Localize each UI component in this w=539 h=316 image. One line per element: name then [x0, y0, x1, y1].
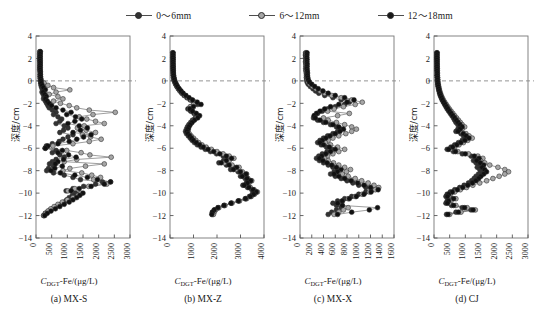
svg-text:4: 4: [426, 31, 431, 41]
chart-panel-mx-x: 420−2−4−6−8−10−12−1402004006008001000120…: [266, 26, 400, 316]
svg-text:0: 0: [427, 243, 436, 247]
svg-text:3000: 3000: [123, 243, 132, 259]
svg-text:−12: −12: [283, 211, 296, 221]
panel-caption: (a) MX-S: [2, 294, 136, 304]
svg-text:1000: 1000: [458, 243, 467, 259]
svg-text:−12: −12: [153, 211, 166, 221]
svg-text:−2: −2: [23, 99, 32, 109]
legend-entry-6-12mm: 6～12mm: [249, 8, 319, 22]
svg-text:−4: −4: [23, 121, 33, 131]
svg-text:−6: −6: [421, 143, 430, 153]
svg-text:1000: 1000: [352, 243, 361, 259]
svg-text:800: 800: [340, 243, 349, 255]
legend-entry-12-18mm: 12～18mm: [378, 8, 453, 22]
svg-text:2000: 2000: [490, 243, 499, 259]
svg-text:−6: −6: [287, 143, 296, 153]
x-axis-title: CDGT-Fe/(μg/L): [266, 276, 400, 287]
svg-text:500: 500: [443, 243, 452, 255]
svg-text:4: 4: [28, 31, 33, 41]
svg-text:1000: 1000: [187, 243, 196, 259]
svg-text:0: 0: [426, 76, 430, 86]
svg-text:−14: −14: [417, 233, 431, 243]
y-axis-title: 深度/cm: [273, 95, 286, 155]
svg-text:−4: −4: [157, 121, 167, 131]
svg-text:3000: 3000: [234, 243, 243, 259]
svg-text:1600: 1600: [387, 243, 396, 259]
svg-text:−4: −4: [287, 121, 297, 131]
x-axis-title: CDGT-Fe/(μg/L): [136, 276, 270, 287]
legend-label: 0～6mm: [156, 8, 191, 22]
chart-panel-mx-s: 420−2−4−6−8−10−12−1405001000150020002500…: [2, 26, 136, 316]
legend-marker-icon: [249, 11, 275, 20]
legend-label: 6～12mm: [279, 8, 319, 22]
chart-legend: 0～6mm 6～12mm 12～18mm: [0, 4, 539, 26]
svg-text:0: 0: [292, 76, 296, 86]
svg-text:2: 2: [162, 54, 166, 64]
panel-caption: (d) CJ: [400, 294, 534, 304]
svg-text:3000: 3000: [521, 243, 530, 259]
svg-text:0: 0: [28, 76, 32, 86]
panel-caption: (b) MX-Z: [136, 294, 270, 304]
svg-text:−8: −8: [23, 166, 32, 176]
svg-text:−10: −10: [283, 188, 296, 198]
svg-text:−2: −2: [157, 99, 166, 109]
legend-label: 12～18mm: [408, 8, 453, 22]
plot-area: 420−2−4−6−8−10−12−1405001000150020002500…: [400, 26, 534, 276]
svg-text:−2: −2: [287, 99, 296, 109]
legend-marker-icon: [378, 11, 404, 20]
svg-text:400: 400: [317, 243, 326, 255]
svg-text:−6: −6: [23, 143, 32, 153]
svg-text:2: 2: [28, 54, 32, 64]
svg-text:1500: 1500: [474, 243, 483, 259]
plot-area: 420−2−4−6−8−10−12−1401000200030004000: [136, 26, 270, 276]
svg-text:−14: −14: [153, 233, 167, 243]
svg-text:−8: −8: [157, 166, 166, 176]
panel-caption: (c) MX-X: [266, 294, 400, 304]
svg-text:−12: −12: [19, 211, 32, 221]
svg-text:1500: 1500: [76, 243, 85, 259]
svg-text:2: 2: [292, 54, 296, 64]
svg-text:2: 2: [426, 54, 430, 64]
svg-text:−6: −6: [157, 143, 166, 153]
svg-text:2000: 2000: [92, 243, 101, 259]
svg-text:−8: −8: [287, 166, 296, 176]
svg-text:600: 600: [328, 243, 337, 255]
svg-text:0: 0: [163, 243, 172, 247]
svg-text:500: 500: [45, 243, 54, 255]
legend-marker-icon: [126, 11, 152, 20]
svg-text:0: 0: [293, 243, 302, 247]
svg-text:−14: −14: [19, 233, 33, 243]
svg-text:4: 4: [162, 31, 167, 41]
chart-panel-cj: 420−2−4−6−8−10−12−1405001000150020002500…: [400, 26, 534, 316]
y-axis-title: 深度/cm: [407, 95, 420, 155]
y-axis-title: 深度/cm: [9, 95, 22, 155]
svg-text:0: 0: [162, 76, 166, 86]
svg-text:1000: 1000: [60, 243, 69, 259]
svg-text:4000: 4000: [257, 243, 266, 259]
svg-text:2500: 2500: [505, 243, 514, 259]
plot-area: 420−2−4−6−8−10−12−1405001000150020002500…: [2, 26, 136, 276]
x-axis-title: CDGT-Fe/(μg/L): [2, 276, 136, 287]
svg-text:−8: −8: [421, 166, 430, 176]
svg-text:1400: 1400: [375, 243, 384, 259]
svg-text:−14: −14: [283, 233, 297, 243]
svg-text:−12: −12: [417, 211, 430, 221]
svg-text:−2: −2: [421, 99, 430, 109]
svg-text:0: 0: [29, 243, 38, 247]
svg-text:−10: −10: [19, 188, 32, 198]
svg-text:2000: 2000: [210, 243, 219, 259]
svg-text:4: 4: [292, 31, 297, 41]
legend-entry-0-6mm: 0～6mm: [126, 8, 191, 22]
svg-text:1200: 1200: [364, 243, 373, 259]
svg-text:200: 200: [305, 243, 314, 255]
plot-area: 420−2−4−6−8−10−12−1402004006008001000120…: [266, 26, 400, 276]
svg-text:2500: 2500: [107, 243, 116, 259]
y-axis-title: 深度/cm: [143, 95, 156, 155]
svg-text:−10: −10: [153, 188, 166, 198]
svg-text:−10: −10: [417, 188, 430, 198]
svg-text:−4: −4: [421, 121, 431, 131]
chart-panel-mx-z: 420−2−4−6−8−10−12−1401000200030004000 深度…: [136, 26, 270, 316]
figure-container: 0～6mm 6～12mm 12～18mm 420−2−4−6−8−10−12−1…: [0, 0, 539, 316]
x-axis-title: CDGT-Fe/(μg/L): [400, 276, 534, 287]
